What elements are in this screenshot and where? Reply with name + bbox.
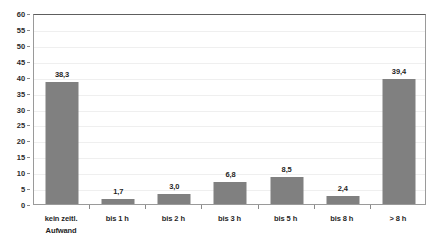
y-tick-label: 60 [17, 10, 25, 19]
y-tick-mark [27, 110, 30, 111]
x-tick-label-line: bis 3 h [218, 214, 241, 223]
plot-area: 38,31,73,06,88,52,439,4 [33, 14, 426, 205]
x-tick-mark [314, 205, 315, 209]
bar-slot: 1,7 [90, 15, 146, 204]
x-tick-label-line: kein zeitl. [45, 214, 78, 223]
bar-slot: 2,4 [315, 15, 371, 204]
bar-value-label: 1,7 [113, 187, 123, 196]
bar-value-label: 3,0 [169, 182, 179, 191]
y-tick-mark [27, 141, 30, 142]
x-axis-category: bis 5 h [258, 206, 314, 225]
x-tick-label-line: bis 2 h [162, 214, 185, 223]
y-tick-label: 0 [21, 201, 25, 210]
y-tick-mark [27, 62, 30, 63]
x-tick-mark [370, 205, 371, 209]
bar-value-label: 39,4 [392, 67, 406, 76]
bar-slot: 8,5 [259, 15, 315, 204]
y-tick-label: 30 [17, 105, 25, 114]
y-tick-label: 25 [17, 121, 25, 130]
y-tick-label: 45 [17, 57, 25, 66]
x-tick-label-line: bis 1 h [106, 214, 129, 223]
y-tick-mark [27, 125, 30, 126]
x-tick-mark [258, 205, 259, 209]
y-tick-label: 50 [17, 41, 25, 50]
bar[interactable] [326, 196, 359, 204]
y-tick-mark [27, 46, 30, 47]
x-tick-label: bis 2 h [145, 206, 201, 225]
x-axis-category: bis 8 h [314, 206, 370, 225]
bar-value-label: 2,4 [338, 184, 348, 193]
x-axis-category: bis 2 h [145, 206, 201, 225]
bar[interactable] [382, 79, 415, 204]
x-tick-label: bis 3 h [201, 206, 257, 225]
bar-value-label: 8,5 [282, 165, 292, 174]
y-tick-label: 35 [17, 89, 25, 98]
y-tick-mark [27, 205, 30, 206]
bar[interactable] [46, 82, 79, 204]
x-tick-mark [145, 205, 146, 209]
bar-slot: 38,3 [34, 15, 90, 204]
x-tick-label: bis 5 h [258, 206, 314, 225]
y-tick-label: 15 [17, 153, 25, 162]
x-axis-category: bis 3 h [201, 206, 257, 225]
x-tick-label-line: > 8 h [390, 214, 407, 223]
y-tick-label: 40 [17, 73, 25, 82]
bar-chart: 605550454035302520151050 38,31,73,06,88,… [0, 0, 444, 252]
x-tick-label: bis 1 h [89, 206, 145, 225]
x-tick-label: > 8 h [370, 206, 426, 225]
x-tick-label-line: bis 8 h [330, 214, 353, 223]
x-axis-category: kein zeitl.Aufwand [33, 206, 89, 237]
x-axis-category: > 8 h [370, 206, 426, 225]
x-tick-label-line: bis 5 h [274, 214, 297, 223]
y-tick-label: 5 [21, 185, 25, 194]
bar-slot: 6,8 [202, 15, 258, 204]
x-tick-mark [89, 205, 90, 209]
bar[interactable] [102, 199, 135, 204]
y-tick-mark [27, 30, 30, 31]
y-tick-mark [27, 189, 30, 190]
y-tick-label: 55 [17, 25, 25, 34]
y-tick-label: 10 [17, 169, 25, 178]
bar[interactable] [158, 194, 191, 204]
x-axis-category: bis 1 h [89, 206, 145, 225]
bar-value-label: 38,3 [55, 70, 69, 79]
bar[interactable] [270, 177, 303, 204]
y-tick-mark [27, 157, 30, 158]
y-tick-mark [27, 14, 30, 15]
x-tick-mark [201, 205, 202, 209]
y-tick-mark [27, 173, 30, 174]
bar-value-label: 6,8 [225, 170, 235, 179]
bar-slot: 3,0 [146, 15, 202, 204]
x-tick-label-line: Aufwand [33, 225, 89, 237]
y-tick-label: 20 [17, 137, 25, 146]
y-tick-mark [27, 94, 30, 95]
bar-slot: 39,4 [371, 15, 427, 204]
bar[interactable] [214, 182, 247, 204]
x-axis: kein zeitl.Aufwandbis 1 hbis 2 hbis 3 hb… [33, 206, 426, 252]
y-tick-mark [27, 78, 30, 79]
x-tick-label: bis 8 h [314, 206, 370, 225]
x-tick-label: kein zeitl.Aufwand [33, 206, 89, 237]
y-axis: 605550454035302520151050 [0, 14, 30, 205]
